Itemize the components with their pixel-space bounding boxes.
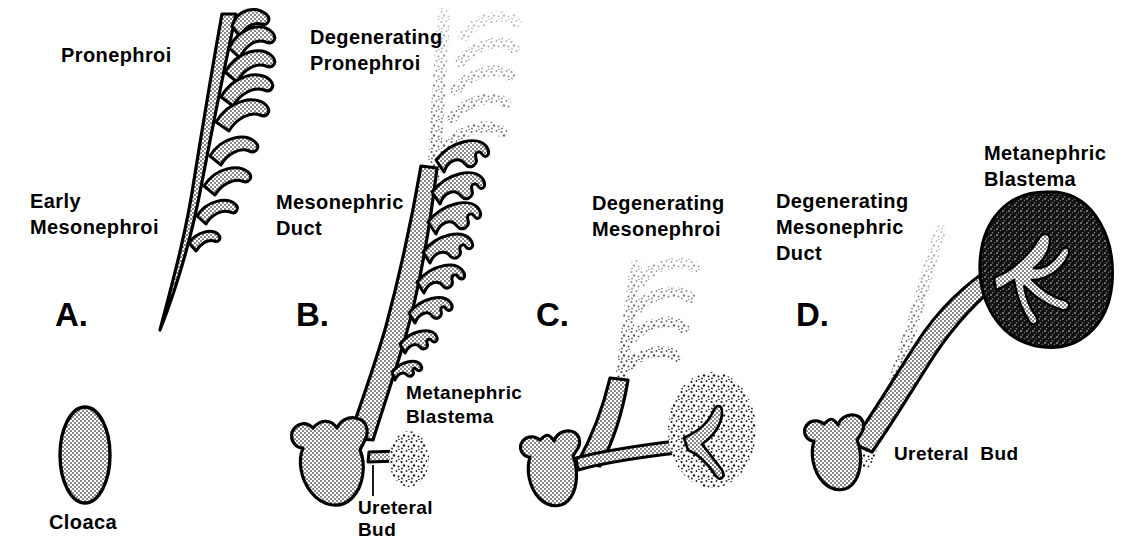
panel-b-metanephric-blastema [389,431,429,487]
panel-letter-b: B. [296,298,329,331]
label-degenerating-pronephroi-line1: Degenerating [310,26,443,49]
label-degenerating-mesonephroi-line2: Mesonephroi [592,218,721,241]
label-mesonephric-duct-line2: Duct [276,217,322,240]
label-degenerating-mesonephroi-line1: Degenerating [592,192,725,215]
label-cloaca: Cloaca [49,511,117,534]
panel-letter-d: D. [796,298,829,331]
label-degenerating-mesonephric-duct-line1: Degenerating [776,190,909,213]
label-ureteral-bud-b-line1: Ureteral [358,497,433,519]
panel-a-illustration [60,10,275,503]
label-mesonephric-duct-line1: Mesonephric [276,191,404,214]
label-pronephroi: Pronephroi [61,44,172,67]
label-ureteral-bud-b-line2: Bud [358,519,396,541]
label-degenerating-mesonephric-duct-line3: Duct [776,242,822,265]
label-degenerating-pronephroi-line2: Pronephroi [310,52,421,75]
embryology-figure: Pronephroi Early Mesonephroi A. Cloaca D… [0,0,1137,541]
label-metanephric-blastema-d-line2: Blastema [984,168,1076,191]
label-metanephric-blastema-d-line1: Metanephric [984,142,1106,165]
panel-letter-c: C. [536,298,569,331]
label-ureteral-bud-d: Ureteral Bud [894,443,1019,465]
label-early-mesonephroi-line2: Mesonephroi [30,216,159,239]
panel-c-degenerating-mesonephroi [620,263,696,392]
panel-letter-a: A. [55,298,88,331]
label-metanephric-blastema-b-line2: Blastema [406,406,494,428]
panel-b-illustration [292,14,516,505]
panel-c-cloaca [521,431,580,506]
panel-b-cloaca [292,418,368,506]
panel-d-bladder [805,415,864,490]
label-degenerating-mesonephric-duct-line2: Mesonephric [776,216,904,239]
label-metanephric-blastema-b-line1: Metanephric [406,382,522,404]
label-early-mesonephroi-line1: Early [30,190,81,213]
panel-a-cloaca [60,407,110,503]
